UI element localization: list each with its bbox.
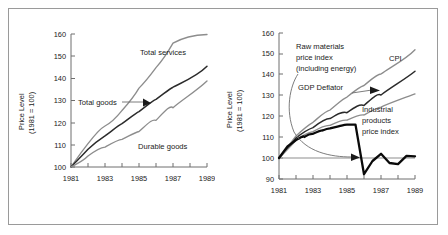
left-xtick-1983: 1983: [97, 174, 113, 183]
left-label-total-goods: Total goods: [78, 98, 117, 107]
right-xtick-1987: 1987: [373, 186, 389, 195]
right-ytick-130: 130: [262, 91, 274, 100]
right-y-title-line1: Price Level: [225, 91, 234, 128]
right-xtick-1981: 1981: [271, 186, 287, 195]
left-y-ticks: [71, 34, 75, 167]
right-label-raw-materials-line3: (including energy): [296, 64, 357, 73]
right-label-industrial-products: Industrial products price index: [362, 105, 399, 136]
left-xtick-1987: 1987: [165, 174, 181, 183]
left-ytick-160: 160: [54, 30, 66, 39]
left-ytick-140: 140: [54, 74, 66, 83]
left-ytick-100: 100: [54, 163, 66, 172]
left-chart-svg: Price Level (1981 = 100) 100 110 120 130…: [0, 0, 215, 217]
left-ytick-120: 120: [54, 119, 66, 128]
right-xtick-1983: 1983: [305, 186, 321, 195]
right-ytick-90: 90: [266, 175, 274, 184]
left-ytick-150: 150: [54, 52, 66, 61]
right-ytick-120: 120: [262, 112, 274, 121]
left-ytick-130: 130: [54, 96, 66, 105]
right-label-industrial-line1: Industrial: [362, 105, 393, 114]
right-y-axis-title: Price Level (1981 = 100): [225, 90, 244, 132]
left-xtick-1981: 1981: [63, 174, 79, 183]
left-series-total-goods: [71, 66, 207, 167]
right-ytick-160: 160: [262, 29, 274, 38]
right-x-ticks: [279, 175, 415, 179]
right-xtick-1989: 1989: [407, 186, 423, 195]
chart-panel-right: Price Level (1981 = 100) 90 100 110 120 …: [210, 0, 425, 217]
right-y-tick-labels: 90 100 110 120 130 140 150 160: [262, 29, 274, 184]
chart-panel-left: Price Level (1981 = 100) 100 110 120 130…: [0, 0, 215, 217]
right-label-raw-materials-line2: price index: [296, 53, 333, 62]
left-y-axis-title: Price Level (1981 = 100): [17, 92, 36, 134]
right-ytick-150: 150: [262, 49, 274, 58]
right-ytick-110: 110: [262, 133, 274, 142]
right-y-title-line2: (1981 = 100): [235, 90, 244, 132]
left-x-tick-labels: 1981 1983 1985 1987 1989: [63, 174, 215, 183]
right-label-raw-materials-line1: Raw materials: [296, 42, 344, 51]
left-ytick-110: 110: [54, 141, 66, 150]
right-label-industrial-line2: products: [362, 116, 391, 125]
right-x-tick-labels: 1981 1983 1985 1987 1989: [271, 186, 423, 195]
right-label-industrial-line3: price index: [362, 127, 399, 136]
left-label-durable-goods: Durable goods: [138, 142, 188, 151]
right-label-raw-materials: Raw materials price index (including ene…: [296, 42, 357, 73]
right-ytick-140: 140: [262, 70, 274, 79]
right-series-industrial-products: [279, 94, 415, 158]
left-y-title-line2: (1981 = 100): [27, 92, 36, 134]
left-y-title-line1: Price Level: [17, 93, 26, 130]
right-label-cpi: CPI: [389, 54, 402, 63]
right-xtick-1985: 1985: [339, 186, 355, 195]
right-ytick-100: 100: [262, 154, 274, 163]
right-label-gdp-deflator: GDP Deflator: [298, 83, 343, 92]
left-y-tick-labels: 100 110 120 130 140 150 160: [54, 30, 66, 172]
figure-root: Price Level (1981 = 100) 100 110 120 130…: [0, 0, 448, 235]
left-x-ticks: [71, 163, 207, 167]
left-series-durable-goods: [71, 81, 207, 167]
right-chart-svg: Price Level (1981 = 100) 90 100 110 120 …: [210, 0, 425, 217]
left-label-total-services: Total services: [140, 48, 186, 57]
left-xtick-1985: 1985: [131, 174, 147, 183]
